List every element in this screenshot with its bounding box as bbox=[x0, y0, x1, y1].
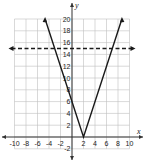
tick-labels: -10-8-6-4-2246810-22468101214161820 bbox=[9, 16, 133, 153]
y-tick-label: 16 bbox=[63, 39, 71, 46]
arrow-up-left-icon bbox=[43, 17, 48, 23]
arrow-right-icon bbox=[131, 46, 136, 51]
y-tick-label: 14 bbox=[63, 51, 71, 58]
y-tick-label: -2 bbox=[64, 145, 70, 152]
x-tick-label: 10 bbox=[126, 140, 134, 147]
x-tick-label: -10 bbox=[9, 140, 19, 147]
arrow-left-icon bbox=[9, 46, 14, 51]
x-tick-label: 6 bbox=[105, 140, 109, 147]
arrow-up-right-icon bbox=[120, 17, 125, 23]
y-tick-label: 18 bbox=[63, 27, 71, 34]
axes bbox=[2, 3, 143, 160]
y-tick-label: 4 bbox=[67, 110, 71, 117]
y-tick-label: 6 bbox=[67, 98, 71, 105]
y-tick-label: 12 bbox=[63, 63, 71, 70]
x-axis-arrow-left-icon bbox=[2, 135, 6, 139]
graph: -10-8-6-4-2246810-22468101214161820 x y bbox=[0, 0, 145, 162]
x-axis-label: x bbox=[136, 127, 141, 136]
y-axis-arrow-down-icon bbox=[70, 156, 74, 160]
x-tick-label: -8 bbox=[23, 140, 29, 147]
y-tick-label: 2 bbox=[67, 122, 71, 129]
x-tick-label: 4 bbox=[93, 140, 97, 147]
y-tick-label: 20 bbox=[63, 16, 71, 23]
y-axis-arrow-up-icon bbox=[70, 3, 74, 7]
x-tick-label: -6 bbox=[34, 140, 40, 147]
x-tick-label: -2 bbox=[57, 140, 63, 147]
x-tick-label: 8 bbox=[116, 140, 120, 147]
x-tick-label: 2 bbox=[82, 140, 86, 147]
x-tick-label: -4 bbox=[46, 140, 52, 147]
y-axis-label: y bbox=[74, 1, 79, 10]
